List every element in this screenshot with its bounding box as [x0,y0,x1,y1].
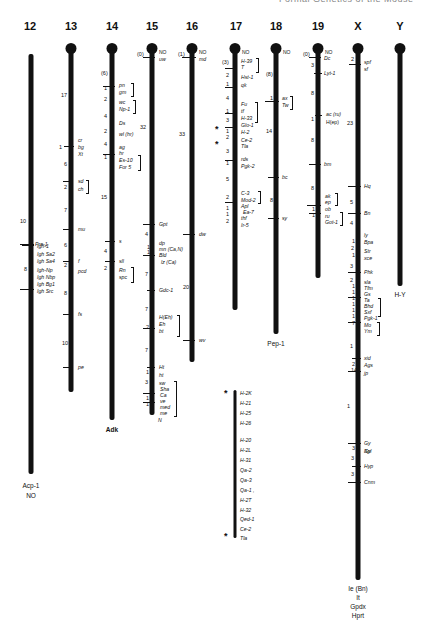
bracket [340,212,343,226]
distance-label: 1 [104,154,107,160]
unmapped-gene-hprt: Hprt [352,612,364,620]
distance-label: 14 [266,128,272,134]
distance-label: 1 [226,211,229,217]
gene-label: Pgk-1 [364,315,378,321]
gene-tick [348,186,361,187]
distance-label: 2 [226,134,229,140]
distance-label: 10 [20,218,26,224]
gene-label: Lyt-1 [324,70,335,76]
distance-label: 7 [145,347,148,353]
unmapped-gene-it: It [356,594,360,602]
gene-tick [265,101,279,102]
gene-label: thf [241,215,247,221]
distance-label: 8 [311,137,314,143]
unmapped-gene-ie-bn: Ie (Bn) [348,585,368,593]
chromosome-13 [69,50,74,392]
gene-label: Igh-1 [37,243,49,249]
chromosome-label-12: 12 [24,20,36,32]
gene-tick [309,57,321,58]
gene-label: Pgk-2 [241,163,255,169]
gene-tick [225,113,237,114]
distance-label: 3 [145,379,148,385]
gene-tick [348,482,361,483]
bracket [335,193,338,206]
chromosome-label-18: 18 [270,20,282,32]
gene-label: Hst-1 [241,74,253,80]
bracket [378,298,381,317]
gene-label: pe [78,364,84,370]
distance-label: 3 [311,62,314,68]
gene-tick [349,64,361,65]
chromosome-x [356,50,361,580]
distance-label: 3 [352,445,355,451]
gene-label: N [158,417,162,423]
distance-label: 1 [352,252,355,258]
distance-label: 4 [104,141,107,147]
chromosome-label-x: X [354,20,361,32]
chromosome-label-16: 16 [186,20,198,32]
asterisk-icon: * [215,125,219,134]
distance-label: 8 [311,185,314,191]
gene-label: Fu [241,101,247,107]
no-label: NO [199,49,207,55]
chromosome-15 [150,50,155,415]
gene-label: Es-10 [119,157,133,163]
gene-label: hr [119,150,124,156]
gene-label: md [199,56,206,62]
gene-label: bm [324,161,331,167]
gene-label: H-25 [240,410,251,416]
chromosome-14 [110,50,115,420]
gene-label: Rn [119,267,126,273]
gene-label: ch [78,186,83,192]
gene-label: uw [159,56,166,62]
gene-tick [105,261,115,262]
bracket [131,267,134,283]
chromosome-label-14: 14 [106,20,118,32]
gene-label: ac (ru) [326,111,341,117]
distance-label: 1 [226,160,229,166]
gene-label: bt [159,328,163,334]
chromosome-label-15: 15 [146,20,158,32]
gene-label: Ht [159,364,164,370]
distance-label: 5 [226,176,229,182]
gene-tick [352,358,361,359]
distance-label: 2 [351,56,354,62]
gene-label: Ds [119,120,125,126]
gene-tick [352,466,361,467]
distance-label: 1 [352,238,355,244]
gene-label: xce [364,255,372,261]
gene-label: H-2 [241,129,249,135]
gene-label: Qa-2 [240,467,252,473]
gene-tick [314,73,322,74]
chromosome-y [398,50,403,286]
distance-label: 14 [351,367,357,373]
gene-label: pn [119,82,125,88]
gene-label: Np-1 [119,106,130,112]
distance-label: 7 [145,271,148,277]
gene-label: Igh Sa4 [37,258,55,264]
gene-label: Igh Src [37,288,53,294]
distance-label: 4 [104,248,107,254]
gene-tick [105,241,115,242]
distance-label: 8 [64,290,67,296]
no-label: NO [283,49,291,55]
gene-label: Xt [78,151,83,157]
gene-label: H(ep) [326,119,339,125]
distance-label: 23 [347,120,353,126]
gene-label: xid [364,355,371,361]
chromosome-label-17: 17 [230,20,242,32]
running-title: Formal Genetics of the Mouse · [279,0,420,4]
gene-label: spf [364,59,371,65]
distance-label: 3 [351,471,354,477]
bracket [258,191,261,204]
distance-label: 2 [226,218,229,224]
chromosome-18 [274,50,279,334]
gene-label: H-20 [240,437,251,443]
gene-label: fs [78,311,82,317]
distance-label: 2 [226,72,229,78]
gene-tick [143,393,155,394]
distance-label: 2 [146,324,149,330]
bracket [131,83,134,97]
gene-tick [225,68,237,69]
distance-label: 15 [101,194,107,200]
